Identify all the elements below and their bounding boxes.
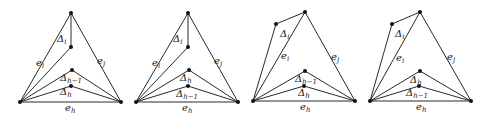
triangulation-panel-2: ΔieiejΔhΔh−1eh (134, 11, 240, 115)
vertex-top (418, 10, 422, 14)
vertex-upper_mid (418, 69, 422, 73)
label-delta-i: Δi (394, 28, 404, 41)
label-delta-hminus-1: Δh−1 (175, 88, 198, 101)
label-edge-j: ej (331, 51, 340, 64)
edge-top-outer (276, 12, 305, 24)
label-edge-i: ei (281, 50, 289, 63)
vertex-upper_mid (187, 68, 191, 72)
edge-upper_mid-right (72, 70, 121, 102)
label-delta-i: Δi (172, 33, 182, 46)
label-edge-j: ej (97, 55, 106, 68)
triangulation-panel-4: ΔieiejΔhΔh−1eh (368, 10, 473, 114)
label-edge-i: ei (396, 52, 404, 65)
label-delta-h: Δh (297, 87, 310, 100)
vertex-right (469, 99, 473, 103)
label-delta-h: Δh (179, 72, 192, 85)
vertex-outer (390, 22, 394, 26)
vertex-upper_mid (70, 68, 74, 72)
vertex-left (18, 100, 22, 104)
vertex-left (251, 99, 255, 103)
edge-top-right (420, 12, 471, 101)
vertex-inner (69, 45, 73, 49)
vertex-left (368, 99, 372, 103)
label-edge-i: ei (36, 57, 44, 70)
vertex-upper_mid (303, 69, 307, 73)
label-delta-h: Δh (409, 74, 422, 87)
vertex-inner (186, 45, 190, 49)
vertex-top (69, 11, 73, 15)
vertex-top (303, 10, 307, 14)
label-delta-i: Δi (279, 28, 289, 41)
vertex-outer (274, 22, 278, 26)
edge-top-outer (392, 12, 420, 24)
triangulation-panel-3: ΔieiejΔh−1Δheh (251, 10, 357, 114)
diagram-canvas: ΔieiejΔh−1ΔhehΔieiejΔhΔh−1ehΔieiejΔh−1Δh… (0, 0, 492, 118)
vertex-top (186, 11, 190, 15)
label-edge-h: eh (416, 101, 426, 114)
label-edge-h: eh (182, 102, 192, 115)
label-edge-j: ej (214, 55, 223, 68)
label-delta-hminus-1: Δh−1 (294, 73, 317, 86)
label-delta-i: Δi (56, 33, 66, 46)
edge-top-right (305, 12, 355, 101)
vertex-right (236, 100, 240, 104)
label-edge-h: eh (300, 101, 310, 114)
vertex-right (119, 100, 123, 104)
label-delta-hminus-1: Δh−1 (405, 87, 428, 100)
edge-upper_mid-right (305, 71, 355, 101)
triangulation-panel-1: ΔieiejΔh−1Δheh (18, 11, 123, 115)
label-edge-h: eh (65, 102, 75, 115)
vertex-right (353, 99, 357, 103)
label-delta-h: Δh (59, 86, 72, 99)
vertex-left (134, 100, 138, 104)
